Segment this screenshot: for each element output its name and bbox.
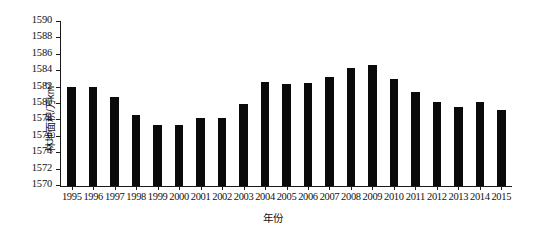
x-axis-tick-label: 2002 — [212, 191, 232, 202]
x-axis-tick-label: 2006 — [298, 191, 318, 202]
y-axis-tick: 1580 — [56, 103, 61, 104]
bar — [454, 107, 463, 186]
x-axis-tick-label: 2015 — [491, 191, 511, 202]
x-axis-tick-label: 2007 — [320, 191, 340, 202]
y-axis-tick: 1578 — [56, 119, 61, 120]
y-axis-tick: 1574 — [56, 152, 61, 153]
bar — [411, 92, 420, 186]
x-axis-tick — [372, 186, 373, 190]
x-axis-tick-label: 2003 — [234, 191, 254, 202]
y-axis-tick-label: 1590 — [32, 14, 52, 25]
x-axis-tick — [158, 186, 159, 190]
bar — [153, 125, 162, 187]
x-axis-tick-label: 2011 — [406, 191, 425, 202]
bar — [476, 102, 485, 186]
x-axis-tick-label: 1995 — [62, 191, 82, 202]
x-axis-tick-label: 2012 — [427, 191, 447, 202]
y-axis-tick-label: 1588 — [32, 30, 52, 41]
x-axis-tick-label: 2013 — [448, 191, 468, 202]
x-axis-tick-label: 1998 — [126, 191, 146, 202]
y-axis-tick-label: 1578 — [32, 112, 52, 123]
y-axis-tick-label: 1582 — [32, 80, 52, 91]
bar — [347, 68, 356, 186]
x-axis-tick-label: 1999 — [148, 191, 168, 202]
bar — [325, 77, 334, 186]
x-axis-tick-label: 2008 — [341, 191, 361, 202]
y-axis-tick: 1586 — [56, 54, 61, 55]
x-axis-tick — [394, 186, 395, 190]
x-axis-tick-label: 1996 — [83, 191, 103, 202]
bar — [261, 82, 270, 186]
y-axis-tick-label: 1580 — [32, 96, 52, 107]
bar — [175, 125, 184, 186]
bar — [304, 83, 313, 186]
x-axis-tick — [136, 186, 137, 190]
x-axis-label: 年份 — [0, 210, 546, 225]
x-axis-tick-label: 1997 — [105, 191, 125, 202]
x-axis-tick — [480, 186, 481, 190]
bar — [132, 115, 141, 186]
x-axis-tick — [265, 186, 266, 190]
y-axis-tick: 1584 — [56, 70, 61, 71]
x-axis-tick — [415, 186, 416, 190]
x-axis-tick — [222, 186, 223, 190]
x-axis-tick — [72, 186, 73, 190]
bar — [110, 97, 119, 186]
bar — [497, 110, 506, 186]
bar — [239, 104, 248, 186]
y-axis-tick: 1570 — [56, 185, 61, 186]
y-axis-tick: 1576 — [56, 136, 61, 137]
x-axis-tick-label: 2010 — [384, 191, 404, 202]
x-axis-tick — [179, 186, 180, 190]
bar — [433, 102, 442, 186]
x-axis-tick — [308, 186, 309, 190]
x-axis-tick — [93, 186, 94, 190]
x-axis-tick-label: 2004 — [255, 191, 275, 202]
x-axis-tick — [501, 186, 502, 190]
bar — [368, 65, 377, 186]
x-axis-tick-label: 2005 — [277, 191, 297, 202]
y-axis-tick: 1588 — [56, 37, 61, 38]
forest-area-bar-chart: 林地面积/万km2 157015721574157615781580158215… — [0, 0, 546, 233]
x-axis-tick-label: 2001 — [191, 191, 211, 202]
x-axis-tick — [287, 186, 288, 190]
y-axis-tick-label: 1584 — [32, 63, 52, 74]
y-axis-tick: 1582 — [56, 87, 61, 88]
bar — [67, 87, 76, 186]
bar — [196, 118, 205, 186]
y-axis-tick-label: 1586 — [32, 47, 52, 58]
x-axis-tick-label: 2009 — [363, 191, 383, 202]
x-axis-tick-label: 2000 — [169, 191, 189, 202]
y-axis-tick: 1590 — [56, 21, 61, 22]
x-axis-tick-label: 2014 — [470, 191, 490, 202]
y-axis-tick-label: 1574 — [32, 145, 52, 156]
y-axis-tick-label: 1570 — [32, 178, 52, 189]
x-axis-tick — [329, 186, 330, 190]
bar — [89, 87, 98, 186]
bar — [218, 118, 227, 186]
plot-area: 1570157215741576157815801582158415861588… — [60, 22, 512, 187]
x-axis-tick — [201, 186, 202, 190]
x-axis-tick — [351, 186, 352, 190]
bar — [390, 79, 399, 186]
bar — [282, 84, 291, 186]
y-axis-tick-label: 1576 — [32, 129, 52, 140]
x-axis-tick — [458, 186, 459, 190]
x-axis-tick — [244, 186, 245, 190]
y-axis-tick: 1572 — [56, 169, 61, 170]
x-axis-tick — [437, 186, 438, 190]
x-axis-tick — [115, 186, 116, 190]
y-axis-tick-label: 1572 — [32, 162, 52, 173]
